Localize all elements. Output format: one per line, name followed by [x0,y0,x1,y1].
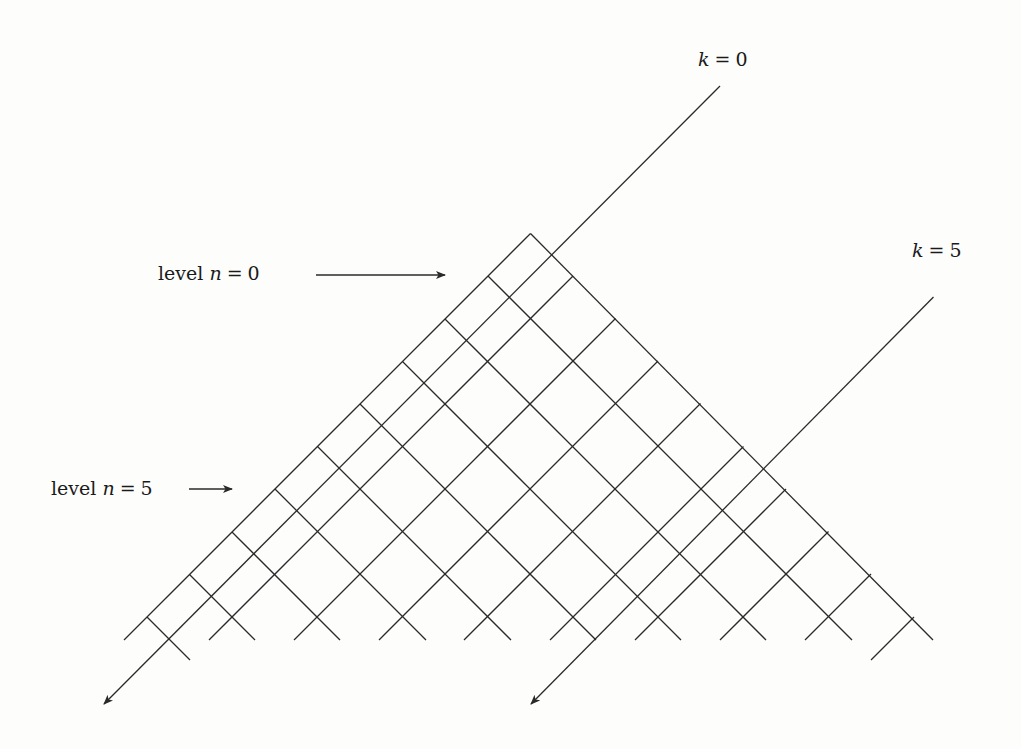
label-level-5-value: 5 [141,477,153,499]
label-level-0-value: 0 [248,262,260,284]
label-k0: k=0 [698,50,748,69]
label-k0-value: 0 [735,48,747,70]
label-level-0-var: n [209,262,221,284]
diagonal-k5-line [531,297,934,704]
down-left-line [464,404,701,641]
lattice-diagram [0,0,1021,749]
down-left-line [379,361,658,640]
label-level-5-op: = [115,477,141,499]
label-level-5: level n=5 [51,479,153,498]
down-right-line [275,489,426,640]
down-left-line [294,319,616,641]
right-edge-line [531,234,934,641]
down-left-line [871,617,914,660]
label-k5: k=5 [912,241,962,260]
label-level-5-var: n [102,477,114,499]
down-left-line [720,532,829,641]
down-right-line [488,276,852,640]
label-level-0: level n=0 [158,264,260,283]
down-right-line [445,319,766,640]
label-k0-op: = [710,48,736,70]
down-right-line [403,362,682,641]
lattice-grid [104,86,934,704]
label-level-0-word: level [158,262,203,284]
label-level-5-word: level [51,477,96,499]
diagonal-k0-line [104,86,720,704]
label-k5-var: k [912,239,924,261]
down-left-line [635,489,786,640]
label-k5-op: = [924,239,950,261]
down-left-line [805,574,871,640]
down-right-line [232,532,340,640]
down-right-line [190,575,256,641]
down-left-line [550,447,744,641]
label-k5-value: 5 [949,239,961,261]
label-k0-var: k [698,48,710,70]
down-right-line [360,404,596,640]
label-level-0-op: = [222,262,248,284]
left-edge-line [124,234,531,641]
down-right-line [318,447,512,641]
